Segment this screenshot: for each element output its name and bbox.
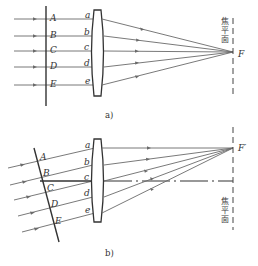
focal-plane-label-a-3: 面 xyxy=(221,35,229,44)
focal-plane-label-b-3: 面 xyxy=(221,215,229,224)
optics-diagram: A B C D E a b c d e 焦 平 面 F a) xyxy=(0,0,258,266)
label-E-a: E xyxy=(49,79,57,89)
label-d-a: d xyxy=(84,58,90,68)
label-e-a: e xyxy=(85,76,90,86)
label-c-a: c xyxy=(84,42,89,52)
focus-label-a: F xyxy=(237,49,245,59)
label-D-a: D xyxy=(49,61,57,71)
label-d-b: d xyxy=(84,188,90,198)
label-D-b: D xyxy=(50,199,58,209)
convex-lens-a xyxy=(92,10,104,96)
label-B-a: B xyxy=(49,30,57,40)
caption-a: a) xyxy=(105,110,113,120)
caption-b: b) xyxy=(105,248,114,258)
focal-plane-label-a-2: 平 xyxy=(221,26,229,35)
label-a-b: a xyxy=(85,140,90,150)
focal-plane-label-a-1: 焦 xyxy=(221,16,229,26)
converging-rays-a xyxy=(102,19,233,85)
label-E-b: E xyxy=(54,216,62,226)
figure-b: A B C D E a b c d e F′ 焦 平 面 b) xyxy=(8,127,246,258)
label-b-b: b xyxy=(84,157,90,167)
label-B-b: B xyxy=(42,168,50,178)
focus-label-b: F′ xyxy=(237,143,246,153)
figure-a: A B C D E a b c d e 焦 平 面 F a) xyxy=(14,6,245,120)
label-C-a: C xyxy=(50,45,57,55)
label-A-a: A xyxy=(49,13,57,23)
label-b-a: b xyxy=(84,27,90,37)
label-A-b: A xyxy=(39,152,47,162)
label-a-a: a xyxy=(85,10,90,20)
label-c-b: c xyxy=(84,172,89,182)
label-e-b: e xyxy=(85,205,90,215)
label-C-b: C xyxy=(47,183,54,193)
focal-plane-label-b-2: 平 xyxy=(221,206,229,215)
converging-rays-b xyxy=(102,146,233,213)
focal-plane-label-b-1: 焦 xyxy=(221,196,229,206)
convex-lens-b xyxy=(92,139,104,222)
